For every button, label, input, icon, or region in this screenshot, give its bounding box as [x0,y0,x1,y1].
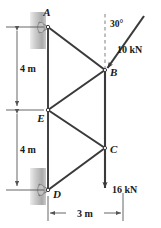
joint-markers [46,25,106,191]
joint-B [103,68,106,71]
member-D-C [48,148,105,190]
joint-label-C: C [110,143,118,155]
truss-members [48,27,105,190]
joint-label-A: A [42,6,50,18]
joint-label-D: D [52,188,61,200]
joint-D [46,188,49,191]
load-label-10kN: 10 kN [117,44,143,55]
joint-A [46,25,49,28]
member-E-C [48,110,105,148]
dim-lower-4m-label: 4 m [20,144,37,155]
member-A-B [48,27,105,70]
joint-label-B: B [109,66,117,78]
load-label-16kN: 16 kN [112,184,138,195]
dim-3m-label: 3 m [77,208,94,219]
truss-diagram: 4 m 4 m 3 m A B E C D 30° 10 kN 16 kN [0,0,161,228]
diagram-canvas: 4 m 4 m 3 m A B E C D 30° 10 kN 16 kN [0,0,161,228]
joint-label-E: E [36,112,44,124]
joint-E [46,108,49,111]
angle-label-30deg: 30° [110,19,124,29]
dim-upper-4m-label: 4 m [20,63,37,74]
joint-C [103,146,106,149]
member-E-B [48,70,105,110]
